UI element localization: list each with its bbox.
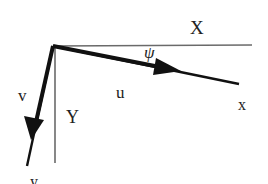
label-fixed-X: X: [190, 18, 204, 37]
label-u: u: [116, 84, 125, 101]
diagram-canvas: [0, 0, 268, 184]
label-body-x: x: [238, 97, 246, 113]
v-vector-shaft: [36, 46, 53, 122]
label-psi: ψ: [144, 44, 155, 61]
coordinate-frame-diagram: X ψ u x v Y y: [0, 0, 268, 184]
label-v: v: [18, 87, 27, 104]
label-body-y: y: [30, 174, 38, 184]
label-fixed-Y: Y: [66, 108, 79, 126]
